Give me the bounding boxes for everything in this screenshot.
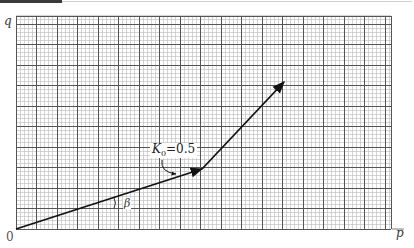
- k-symbol: K: [152, 142, 161, 156]
- k-value: =0.5: [166, 142, 195, 156]
- vector-segment-lower: [16, 169, 202, 229]
- angle-beta-label: β: [123, 198, 131, 209]
- x-axis-label: p: [396, 227, 404, 239]
- k0-annotation: K0=0.5: [150, 143, 197, 158]
- grid-minor-lines: [16, 16, 391, 229]
- y-axis-label: q: [4, 15, 12, 27]
- grid-plot: [0, 0, 414, 248]
- diagram-canvas: q p 0 K0=0.5 β: [0, 0, 414, 248]
- vector-segment-upper: [202, 82, 284, 169]
- origin-label: 0: [6, 231, 14, 243]
